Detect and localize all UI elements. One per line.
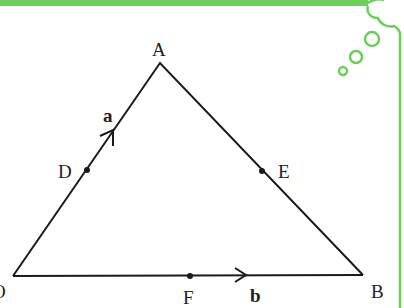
decorative-frame bbox=[0, 0, 400, 308]
point-D bbox=[84, 167, 90, 173]
label-O: O bbox=[0, 282, 6, 301]
point-F bbox=[187, 273, 193, 279]
frame-top-bar bbox=[0, 0, 368, 6]
points bbox=[84, 167, 265, 279]
label-B: B bbox=[371, 282, 384, 301]
label-D: D bbox=[58, 162, 72, 181]
thought-bubble-small bbox=[339, 67, 347, 75]
vector-arrows bbox=[100, 130, 246, 282]
label-F: F bbox=[183, 288, 194, 307]
label-A: A bbox=[152, 40, 166, 59]
label-vector-b: b bbox=[250, 286, 261, 305]
label-E: E bbox=[278, 162, 290, 181]
thought-bubble-medium bbox=[350, 51, 362, 63]
point-E bbox=[259, 168, 265, 174]
thought-bubble-large bbox=[365, 32, 379, 46]
label-vector-a: a bbox=[103, 106, 113, 125]
vector-triangle-diagram bbox=[0, 0, 404, 308]
